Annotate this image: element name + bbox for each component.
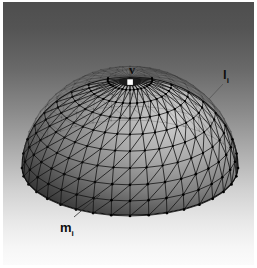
apex-vertex-marker [119, 78, 141, 86]
element-label: mi [60, 221, 74, 238]
edge-leader-line [209, 84, 223, 99]
dome-mesh-svg [3, 2, 254, 265]
apex-label-symbol: v [129, 63, 135, 77]
element-label-symbol: m [60, 220, 72, 235]
edge-label: li [223, 68, 229, 85]
figure-canvas: v li mi [3, 2, 254, 265]
apex-label: v [129, 64, 135, 76]
figure-root: v li mi [0, 0, 257, 268]
edge-label-subscript: i [227, 76, 229, 85]
element-label-subscript: i [72, 229, 74, 238]
